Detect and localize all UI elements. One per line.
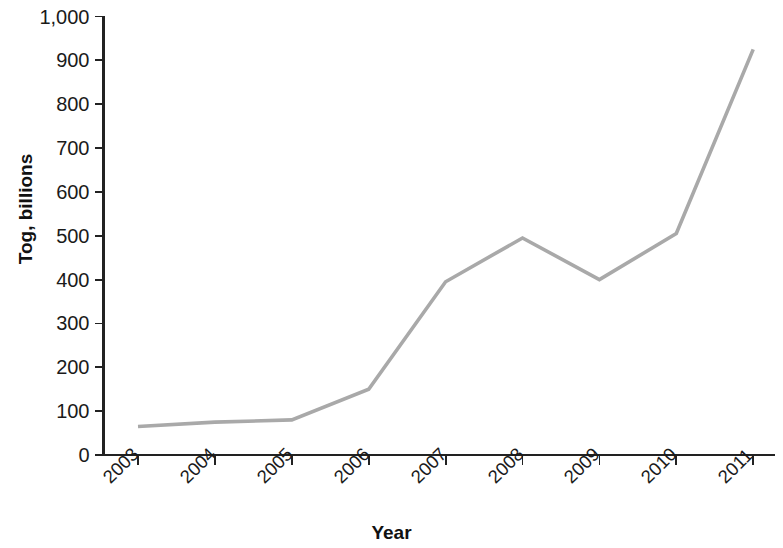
y-axis-tick-label: 500 [56, 226, 89, 246]
y-axis-tick-label: 700 [56, 138, 89, 158]
y-axis-ticks [95, 17, 104, 456]
data-series-line [138, 49, 753, 426]
x-axis-title: Year [0, 522, 783, 544]
y-axis-tick-label: 200 [56, 357, 89, 377]
y-axis-title: Tog, billions [15, 149, 37, 269]
y-axis-tick-label: 0 [78, 445, 89, 465]
line-chart-figure: 01002003004005006007008009001,000 200320… [0, 0, 783, 548]
y-axis-tick-label: 1,000 [39, 7, 89, 27]
y-axis-tick-label: 900 [56, 50, 89, 70]
y-axis-tick-label: 600 [56, 182, 89, 202]
y-axis-tick-label: 400 [56, 270, 89, 290]
y-axis-tick-label: 300 [56, 313, 89, 333]
y-axis-tick-label: 100 [56, 401, 89, 421]
y-axis-tick-label: 800 [56, 94, 89, 114]
